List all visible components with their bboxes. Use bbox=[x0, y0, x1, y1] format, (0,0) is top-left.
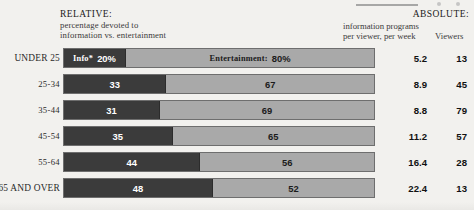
chart-row: 25-3433678.945 bbox=[0, 74, 474, 100]
entertainment-segment-value: 52 bbox=[288, 183, 298, 194]
relative-header-subtitle: percentage devoted to information vs. en… bbox=[60, 21, 166, 40]
chart-row: 35-4431698.879 bbox=[0, 100, 474, 126]
viewers-value: 13 bbox=[433, 48, 467, 68]
chart-row: UNDER 25Info*20%Entertainment:80%5.213 bbox=[0, 48, 474, 74]
chart-row: 65 AND OVER485222.413 bbox=[0, 178, 474, 204]
info-segment-value: 44 bbox=[126, 157, 136, 168]
stacked-bar: 3565 bbox=[63, 126, 375, 146]
entertainment-segment: 52 bbox=[213, 179, 374, 197]
stacked-bar: 3367 bbox=[63, 74, 375, 94]
info-segment: 33 bbox=[64, 75, 166, 93]
entertainment-segment: 65 bbox=[173, 127, 375, 145]
scan-speck-icon bbox=[456, 2, 460, 6]
info-segment-value: 48 bbox=[133, 183, 143, 194]
info-programs-column-header: information programs per viewer, per wee… bbox=[343, 22, 427, 41]
entertainment-segment-legend-label: Entertainment: bbox=[210, 54, 268, 63]
info-programs-value: 11.2 bbox=[381, 126, 427, 146]
age-group-label: 25-34 bbox=[0, 74, 60, 94]
relative-header-title: RELATIVE: bbox=[60, 9, 166, 19]
viewers-value: 57 bbox=[433, 126, 467, 146]
info-segment: 35 bbox=[64, 127, 173, 145]
chart-row: 45-54356511.257 bbox=[0, 126, 474, 152]
viewers-column-header: Viewers bbox=[435, 32, 469, 42]
chart-page: RELATIVE: percentage devoted to informat… bbox=[0, 0, 474, 210]
info-segment: 48 bbox=[64, 179, 213, 197]
viewers-value: 13 bbox=[433, 178, 467, 198]
age-group-label: 35-44 bbox=[0, 100, 60, 120]
entertainment-segment-value: 80% bbox=[272, 53, 291, 64]
info-segment: Info*20% bbox=[64, 49, 126, 67]
stacked-bar: 3169 bbox=[63, 100, 375, 120]
entertainment-segment-value: 67 bbox=[265, 79, 275, 90]
top-rule-artifact bbox=[356, 4, 418, 6]
age-group-label: 55-64 bbox=[0, 152, 60, 172]
absolute-header-title: ABSOLUTE: bbox=[413, 9, 469, 19]
entertainment-segment: 67 bbox=[166, 75, 374, 93]
info-segment-legend-label: Info* bbox=[73, 54, 93, 63]
entertainment-segment-value: 65 bbox=[268, 131, 278, 142]
info-segment-value: 20% bbox=[97, 53, 116, 64]
viewers-value: 79 bbox=[433, 100, 467, 120]
age-group-label: 65 AND OVER bbox=[0, 178, 60, 198]
chart-rows: UNDER 25Info*20%Entertainment:80%5.21325… bbox=[0, 48, 474, 204]
stacked-bar: Info*20%Entertainment:80% bbox=[63, 48, 375, 68]
viewers-value: 28 bbox=[433, 152, 467, 172]
stacked-bar: 4852 bbox=[63, 178, 375, 198]
entertainment-segment: 56 bbox=[200, 153, 374, 171]
info-programs-value: 5.2 bbox=[381, 48, 427, 68]
entertainment-segment-value: 69 bbox=[262, 105, 272, 116]
absolute-column-headers: information programs per viewer, per wee… bbox=[343, 22, 469, 41]
scan-speck-icon bbox=[437, 2, 441, 6]
info-segment-value: 35 bbox=[113, 131, 123, 142]
age-group-label: UNDER 25 bbox=[0, 48, 60, 68]
absolute-header-title-wrap: ABSOLUTE: bbox=[413, 9, 469, 19]
info-segment-value: 31 bbox=[106, 105, 116, 116]
info-programs-value: 8.8 bbox=[381, 100, 427, 120]
info-programs-value: 16.4 bbox=[381, 152, 427, 172]
relative-header-group: RELATIVE: percentage devoted to informat… bbox=[60, 9, 166, 40]
relative-subtitle-line-2: information vs. entertainment bbox=[60, 31, 166, 41]
stacked-bar: 4456 bbox=[63, 152, 375, 172]
info-programs-value: 8.9 bbox=[381, 74, 427, 94]
info-programs-header-line-2: per viewer, per week bbox=[343, 32, 427, 42]
info-segment: 31 bbox=[64, 101, 160, 119]
info-segment-value: 33 bbox=[109, 79, 119, 90]
chart-row: 55-64445616.428 bbox=[0, 152, 474, 178]
info-segment: 44 bbox=[64, 153, 200, 171]
entertainment-segment: Entertainment:80% bbox=[126, 49, 374, 67]
entertainment-segment-value: 56 bbox=[282, 157, 292, 168]
info-programs-value: 22.4 bbox=[381, 178, 427, 198]
entertainment-segment: 69 bbox=[160, 101, 374, 119]
age-group-label: 45-54 bbox=[0, 126, 60, 146]
viewers-value: 45 bbox=[433, 74, 467, 94]
